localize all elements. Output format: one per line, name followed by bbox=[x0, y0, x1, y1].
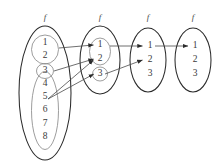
map-label-f1: f bbox=[44, 12, 48, 22]
element-set4-1: 1 bbox=[193, 40, 198, 50]
element-set2-3: 3 bbox=[98, 68, 103, 78]
element-set1-3: 3 bbox=[43, 65, 48, 75]
element-set1-6: 6 bbox=[43, 104, 48, 114]
element-set1-5: 5 bbox=[43, 91, 48, 101]
set-group-3: 1 2 3 f bbox=[130, 12, 166, 92]
element-set3-1: 1 bbox=[148, 40, 153, 50]
element-set2-1: 1 bbox=[98, 39, 103, 49]
element-set1-4: 4 bbox=[43, 78, 48, 88]
element-set3-2: 2 bbox=[148, 54, 153, 64]
element-set1-7: 7 bbox=[43, 118, 48, 128]
map-label-f2: f bbox=[99, 12, 103, 22]
element-set4-3: 3 bbox=[193, 68, 198, 78]
element-set1-2: 2 bbox=[43, 50, 48, 60]
element-set3-3: 3 bbox=[148, 68, 153, 78]
map-label-f3: f bbox=[147, 12, 151, 22]
element-set1-1: 1 bbox=[43, 37, 48, 47]
mapping-diagram: 1 2 3 4 5 6 7 8 f 1 2 3 f 1 2 3 f bbox=[0, 0, 219, 165]
diagram-canvas: 1 2 3 4 5 6 7 8 f 1 2 3 f 1 2 3 f bbox=[0, 0, 219, 165]
arrow-set2-3-to-set3-2 bbox=[105, 60, 143, 74]
map-label-f4: f bbox=[192, 12, 196, 22]
element-set4-2: 2 bbox=[193, 54, 198, 64]
set-group-4: 1 2 3 f bbox=[175, 12, 211, 92]
element-set1-8: 8 bbox=[43, 131, 48, 141]
element-set2-2: 2 bbox=[98, 53, 103, 63]
set-group-2: 1 2 3 f bbox=[80, 12, 120, 94]
